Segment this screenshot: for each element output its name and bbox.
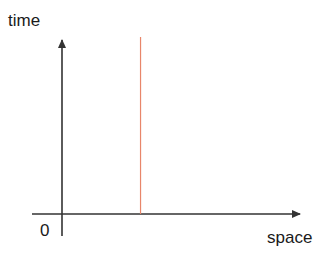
space-axis-label: space: [267, 229, 312, 246]
spacetime-diagram: [0, 0, 332, 260]
time-axis-label: time: [8, 12, 40, 29]
origin-label: 0: [40, 222, 49, 239]
